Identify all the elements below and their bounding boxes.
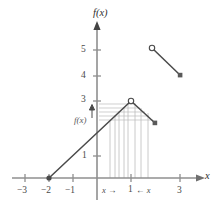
x-tick-label-3: 3 [177,186,182,196]
vertical-guide-lines [110,103,148,178]
fx-value-annotation: f(x) [74,116,87,125]
y-tick-label-3: 3 [81,95,86,105]
marker-square-segment-end [178,73,183,78]
marker-square-right-end [153,121,158,126]
x-tick-label-neg3: −3 [17,186,27,196]
marker-open-segment-start [149,45,154,50]
x-tick-label-neg1: −1 [65,186,75,196]
right-approach-annotation: ← x [136,186,150,195]
y-tick-label-4: 4 [81,71,86,81]
x-axis [12,174,205,182]
marker-open-peak [128,98,133,103]
left-approach-annotation: x → [102,186,116,195]
y-tick-label-1: 1 [82,151,87,161]
upper-right-segment [152,48,180,75]
fx-level-arrow [89,105,94,119]
function-graph-figure: f(x) x 5 4 3 1 −3 −2 −1 3 f(x) x → 1 ← x [0,0,215,221]
y-tick-label-5: 5 [81,45,86,55]
marker-filled-left-vertex [46,175,51,180]
main-curve [49,101,155,178]
x-tick-label-1: 1 [128,185,133,195]
y-axis-label: f(x) [93,8,108,19]
x-axis-label: x [205,171,210,182]
x-tick-label-neg2: −2 [41,186,51,196]
